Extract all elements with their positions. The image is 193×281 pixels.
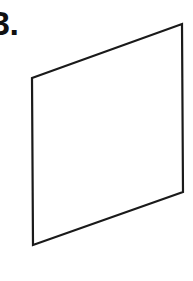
figure-page: 3. bbox=[0, 0, 193, 281]
parallelogram-outline bbox=[32, 24, 183, 245]
parallelogram-figure bbox=[0, 0, 193, 281]
